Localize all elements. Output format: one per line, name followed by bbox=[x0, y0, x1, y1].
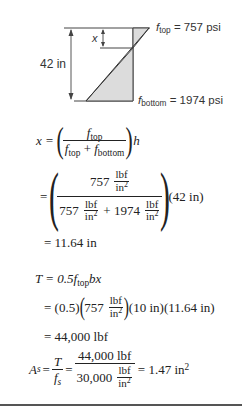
x-def-h: h bbox=[133, 134, 140, 147]
equation-t-substitution: = (0.5) ( 757 lbfin2 ) (10 in)(11.64 in) bbox=[44, 292, 215, 322]
f-top-label: ftop = 757 psi bbox=[156, 21, 221, 33]
equation-x-result: = 11.64 in bbox=[44, 236, 97, 249]
equation-x-definition: x = ( ftop ftop + fbottom ) h bbox=[36, 121, 140, 159]
right-paren: ) bbox=[126, 122, 133, 158]
f-bottom-sub: bottom bbox=[141, 99, 166, 108]
f-bottom-value: = 1974 psi bbox=[166, 94, 223, 106]
x-label: x bbox=[92, 32, 98, 44]
equation-t-definition: T = 0.5ftopbx bbox=[35, 272, 101, 285]
equation-as-definition: As = T fs = 44,000 lbf 30,000 lbfin2 = 1… bbox=[29, 348, 189, 390]
left-paren: ( bbox=[56, 122, 63, 158]
height-dimension-arrow bbox=[69, 29, 74, 100]
equation-t-result: = 44,000 lbf bbox=[44, 330, 108, 343]
x-subst-tail: (42 in) bbox=[168, 190, 203, 203]
f-top-value: = 757 psi bbox=[171, 21, 221, 33]
height-label: 42 in bbox=[40, 57, 66, 71]
x-def-fraction: ftop ftop + fbottom bbox=[63, 126, 127, 155]
x-def-lhs: x = bbox=[36, 134, 54, 147]
x-dimension-arrow bbox=[101, 29, 105, 47]
f-top-sub: top bbox=[159, 26, 171, 35]
f-bottom-label: fbottom = 1974 psi bbox=[138, 94, 223, 106]
equation-x-substitution: = ( 757 lbfin2 757 lbfin2 + 1974 lbfin2 … bbox=[40, 163, 203, 229]
right-big-paren: ) bbox=[160, 163, 170, 229]
x-subst-fraction: 757 lbfin2 757 lbfin2 + 1974 lbfin2 bbox=[57, 169, 162, 222]
x-subst-eq: = bbox=[40, 190, 47, 203]
left-big-paren: ( bbox=[49, 163, 59, 229]
bottom-divider bbox=[0, 404, 242, 406]
